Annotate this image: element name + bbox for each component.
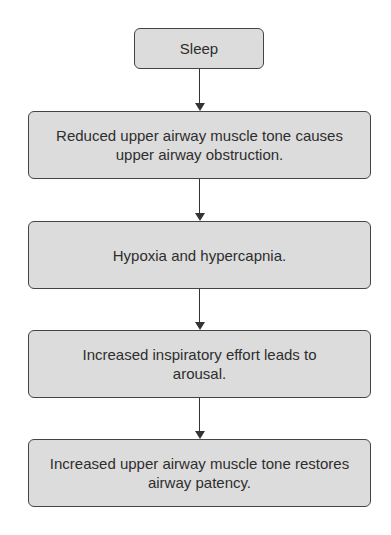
node-reduced-tone: Reduced upper airway muscle tone causes … (28, 111, 371, 179)
node-label: Hypoxia and hypercapnia. (113, 246, 286, 265)
arrow-line (199, 179, 200, 213)
node-label: Reduced upper airway muscle tone causes … (55, 126, 345, 164)
arrow-head-icon (195, 322, 205, 330)
node-increased-tone: Increased upper airway muscle tone resto… (28, 439, 371, 507)
arrow-line (199, 69, 200, 103)
node-label: Increased inspiratory effort leads to ar… (65, 345, 335, 383)
node-sleep: Sleep (134, 28, 264, 69)
arrow-line (199, 398, 200, 431)
node-effort: Increased inspiratory effort leads to ar… (28, 330, 371, 398)
node-label: Sleep (180, 39, 218, 58)
arrow-head-icon (195, 103, 205, 111)
node-hypoxia: Hypoxia and hypercapnia. (28, 221, 371, 289)
arrow-line (199, 289, 200, 322)
arrow-head-icon (195, 431, 205, 439)
node-label: Increased upper airway muscle tone resto… (45, 454, 355, 492)
arrow-head-icon (195, 213, 205, 221)
